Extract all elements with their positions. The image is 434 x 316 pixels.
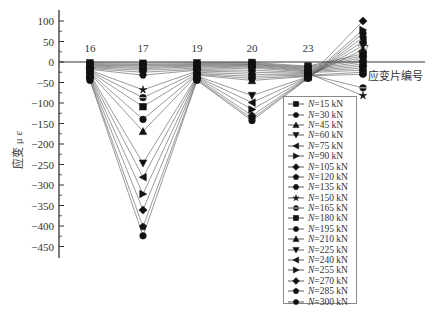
y-tick-label: −150 bbox=[31, 118, 54, 130]
triangle-down-marker-icon bbox=[248, 92, 256, 99]
legend-item: N=105 kN bbox=[284, 161, 356, 171]
triangle-right-marker-icon bbox=[293, 153, 299, 159]
legend-symbol bbox=[284, 99, 308, 109]
circle-marker-icon bbox=[194, 77, 201, 84]
triangle-left-marker-icon bbox=[139, 173, 146, 181]
x-category-label: 27 bbox=[358, 42, 370, 54]
legend-item: N=15 kN bbox=[284, 99, 356, 109]
y-tick-label: −450 bbox=[31, 241, 54, 253]
triangle-left-marker-icon bbox=[293, 257, 299, 263]
diamond-marker-icon bbox=[139, 206, 147, 214]
legend-label: N=30 kN bbox=[308, 110, 343, 120]
legend-label: N=165 kN bbox=[308, 203, 348, 213]
legend-label: N=255 kN bbox=[308, 265, 348, 275]
y-tick-label: −200 bbox=[31, 138, 54, 150]
hexagon-marker-icon bbox=[293, 185, 299, 190]
x-category-label: 23 bbox=[303, 42, 315, 54]
legend-item: N=195 kN bbox=[284, 224, 356, 234]
legend-symbol bbox=[284, 265, 308, 275]
legend-item: N=225 kN bbox=[284, 244, 356, 254]
pentagon-marker-icon bbox=[293, 288, 299, 293]
legend-label: N=75 kN bbox=[308, 141, 343, 151]
x-category-label: 17 bbox=[138, 42, 150, 54]
y-tick-label: −50 bbox=[37, 77, 55, 89]
legend-item: N=255 kN bbox=[284, 265, 356, 275]
square-marker-icon bbox=[140, 103, 147, 110]
y-tick-label: −300 bbox=[31, 179, 54, 191]
square-marker-icon bbox=[293, 216, 298, 221]
legend-item: N=45 kN bbox=[284, 120, 356, 130]
legend-symbol bbox=[284, 276, 308, 286]
y-tick-label: −400 bbox=[31, 220, 54, 232]
legend-symbol bbox=[284, 224, 308, 234]
legend-item: N=285 kN bbox=[284, 286, 356, 296]
y-tick-label: −250 bbox=[31, 159, 54, 171]
legend-symbol bbox=[284, 130, 308, 140]
legend-label: N=15 kN bbox=[308, 99, 343, 109]
circle-marker-icon bbox=[140, 233, 147, 240]
triangle-left-marker-icon bbox=[248, 99, 255, 107]
y-axis-title: 应变 μ ε bbox=[11, 131, 24, 169]
legend-item: N=240 kN bbox=[284, 255, 356, 265]
diamond-marker-icon bbox=[293, 277, 300, 284]
legend-symbol bbox=[284, 245, 308, 255]
y-tick-label: 0 bbox=[49, 56, 55, 68]
legend-label: N=105 kN bbox=[308, 162, 348, 172]
legend-symbol bbox=[284, 151, 308, 161]
y-tick-label: −350 bbox=[31, 200, 54, 212]
pentagon-marker-icon bbox=[139, 223, 146, 230]
strain-line-chart: 100500−50−100−150−200−250−300−350−400−45… bbox=[0, 0, 434, 316]
legend-symbol bbox=[284, 110, 308, 120]
legend-symbol bbox=[284, 141, 308, 151]
legend-label: N=300 kN bbox=[308, 297, 348, 307]
x-category-label: 19 bbox=[192, 42, 204, 54]
diamond-marker-icon bbox=[293, 163, 300, 170]
star-marker-icon bbox=[139, 86, 147, 93]
legend-symbol bbox=[284, 297, 308, 307]
circle-marker-icon bbox=[293, 226, 298, 231]
circle-marker-icon bbox=[140, 116, 147, 123]
axes bbox=[59, 10, 425, 258]
star-marker-icon bbox=[293, 194, 299, 200]
legend-item: N=60 kN bbox=[284, 130, 356, 140]
circle-marker-icon bbox=[87, 77, 94, 84]
legend-symbol bbox=[284, 203, 308, 213]
legend-symbol bbox=[284, 255, 308, 265]
legend-label: N=285 kN bbox=[308, 286, 348, 296]
legend-item: N=150 kN bbox=[284, 193, 356, 203]
triangle-right-marker-icon bbox=[140, 190, 147, 198]
legend-label: N=240 kN bbox=[308, 255, 348, 265]
triangle-right-marker-icon bbox=[293, 267, 299, 273]
legend-item: N=75 kN bbox=[284, 141, 356, 151]
y-tick-label: −100 bbox=[31, 97, 54, 109]
legend-label: N=180 kN bbox=[308, 213, 348, 223]
legend-label: N=150 kN bbox=[308, 193, 348, 203]
legend-symbol bbox=[284, 172, 308, 182]
pentagon-marker-icon bbox=[293, 174, 299, 179]
legend-item: N=90 kN bbox=[284, 151, 356, 161]
y-tick-label: 100 bbox=[38, 15, 55, 27]
legend-label: N=120 kN bbox=[308, 172, 348, 182]
legend: N=15 kNN=30 kNN=45 kNN=60 kNN=75 kNN=90 … bbox=[283, 96, 357, 304]
legend-item: N=120 kN bbox=[284, 172, 356, 182]
legend-item: N=135 kN bbox=[284, 182, 356, 192]
circle-marker-icon bbox=[293, 112, 298, 117]
hexagon-marker-icon bbox=[139, 72, 146, 78]
circle-marker-icon bbox=[305, 75, 312, 82]
legend-symbol bbox=[284, 234, 308, 244]
x-category-label: 20 bbox=[247, 42, 259, 54]
legend-label: N=210 kN bbox=[308, 234, 348, 244]
x-axis-title: 应变片编号 bbox=[368, 69, 423, 82]
legend-symbol bbox=[284, 182, 308, 192]
triangle-left-marker-icon bbox=[293, 143, 299, 149]
x-category-label: 16 bbox=[85, 42, 97, 54]
legend-symbol bbox=[284, 162, 308, 172]
circle-marker-icon bbox=[360, 71, 367, 78]
legend-item: N=210 kN bbox=[284, 234, 356, 244]
legend-item: N=180 kN bbox=[284, 213, 356, 223]
circle-marker-icon bbox=[249, 117, 256, 124]
legend-symbol bbox=[284, 193, 308, 203]
triangle-down-marker-icon bbox=[139, 160, 147, 167]
legend-item: N=165 kN bbox=[284, 203, 356, 213]
legend-label: N=270 kN bbox=[308, 276, 348, 286]
